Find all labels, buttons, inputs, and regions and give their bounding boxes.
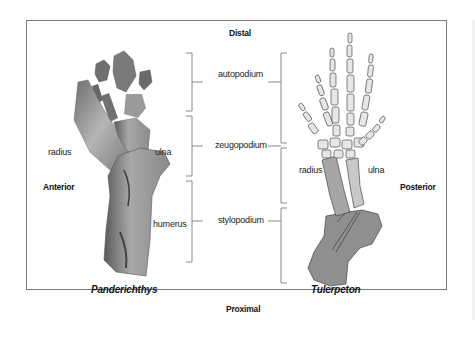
- proximal-label: Proximal: [226, 304, 260, 314]
- panderichthys-radius-label: radius: [48, 147, 71, 157]
- segment-autopodium: autopodium: [218, 69, 263, 79]
- diagram-artwork: [0, 0, 475, 337]
- posterior-label: Posterior: [400, 182, 436, 192]
- panderichthys-humerus-label: humerus: [153, 219, 187, 229]
- panderichthys-name: Panderichthys: [91, 284, 157, 295]
- distal-label: Distal: [229, 28, 251, 38]
- tulerpeton-radius-label: radius: [299, 165, 322, 175]
- tulerpeton-limb: [298, 33, 386, 286]
- left-brackets: [186, 53, 203, 262]
- right-brackets: [268, 53, 287, 283]
- tulerpeton-name: Tulerpeton: [311, 284, 361, 295]
- panderichthys-ulna-label: ulna: [155, 147, 171, 157]
- anterior-label: Anterior: [43, 182, 74, 192]
- tulerpeton-ulna-label: ulna: [368, 165, 384, 175]
- segment-stylopodium: stylopodium: [218, 215, 264, 225]
- segment-zeugopodium: zeugopodium: [215, 140, 267, 150]
- panderichthys-fin-fossil: [74, 51, 170, 276]
